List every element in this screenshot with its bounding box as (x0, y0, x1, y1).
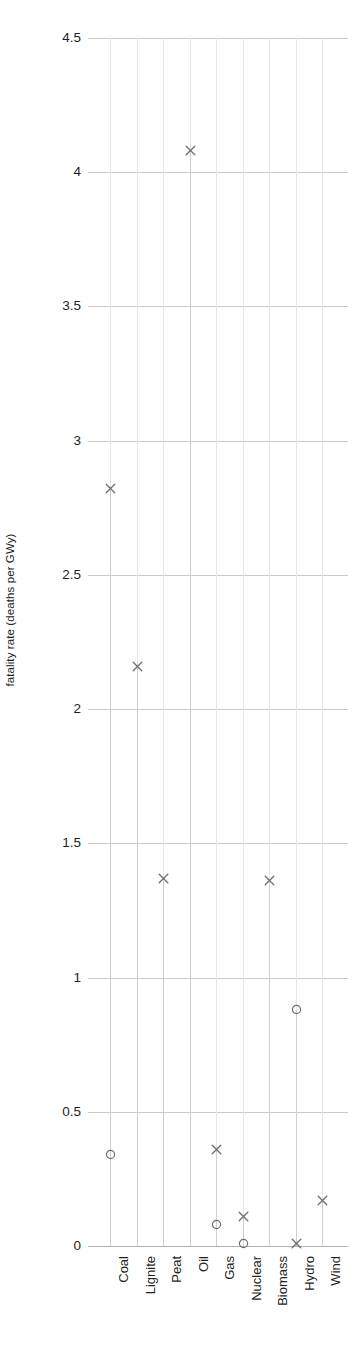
category-guide-line (243, 38, 244, 1246)
stem-line (216, 1149, 217, 1246)
stem-line (190, 151, 191, 1246)
data-point-cross-nuclear (237, 1210, 250, 1223)
gridline-3 (88, 441, 348, 442)
column-oil (190, 38, 191, 1246)
data-point-cross-peat (157, 872, 170, 885)
y-axis-label: fatality rate (deaths per GWy) (4, 290, 16, 930)
y-tick-label: 3.5 (62, 300, 81, 314)
x-tick-label-wind: Wind (329, 1256, 342, 1286)
data-point-cross-coal (104, 482, 117, 495)
figure-caption (0, 1330, 357, 1361)
y-tick-label: 4.5 (62, 31, 81, 45)
x-tick-label-peat: Peat (170, 1256, 183, 1283)
figure-scatter-fatality-rate: fatality rate (deaths per GWy) 00.511.52… (0, 0, 357, 1361)
gridline-2 (88, 709, 348, 710)
stem-line (137, 666, 138, 1246)
column-biomass (269, 38, 270, 1246)
x-tick-label-hydro: Hydro (303, 1256, 316, 1291)
gridline-2.5 (88, 575, 348, 576)
data-point-cross-hydro (290, 1237, 303, 1250)
data-point-cross-biomass (263, 874, 276, 887)
data-point-cross-wind (316, 1194, 329, 1207)
category-guide-line (322, 38, 323, 1246)
x-tick-label-lignite: Lignite (144, 1256, 157, 1294)
stem-line (269, 881, 270, 1246)
y-tick-label: 2.5 (62, 568, 81, 582)
data-point-cross-lignite (131, 660, 144, 673)
y-tick-label: 1 (73, 971, 81, 985)
column-lignite (137, 38, 138, 1246)
plot-area: 00.511.522.533.544.5 CoalLignitePeatOilG… (88, 38, 348, 1246)
gridline-3.5 (88, 306, 348, 307)
column-peat (163, 38, 164, 1246)
gridline-0.5 (88, 1112, 348, 1113)
x-tick-label-coal: Coal (117, 1256, 130, 1283)
category-guide-line (216, 38, 217, 1246)
stem-line (163, 878, 164, 1246)
x-tick-label-nuclear: Nuclear (250, 1256, 263, 1301)
column-nuclear (243, 38, 244, 1246)
stem-line (296, 1010, 297, 1246)
gridline-4 (88, 172, 348, 173)
y-tick-label: 0.5 (62, 1105, 81, 1119)
gridline-4.5 (88, 38, 348, 39)
data-point-cross-gas (210, 1143, 223, 1156)
y-tick-label: 2 (73, 702, 81, 716)
x-tick-label-oil: Oil (197, 1256, 210, 1272)
gridline-1.5 (88, 843, 348, 844)
data-point-circle-nuclear (237, 1237, 250, 1250)
y-tick-label: 4 (73, 165, 81, 179)
y-tick-label: 0 (73, 1239, 81, 1253)
data-point-circle-gas (210, 1218, 223, 1231)
data-point-circle-coal (104, 1148, 117, 1161)
column-gas (216, 38, 217, 1246)
column-hydro (296, 38, 297, 1246)
column-wind (322, 38, 323, 1246)
column-coal (110, 38, 111, 1246)
stem-line (110, 489, 111, 1246)
data-point-circle-hydro (290, 1003, 303, 1016)
y-tick-label: 3 (73, 434, 81, 448)
gridline-0 (88, 1246, 348, 1247)
y-tick-label: 1.5 (62, 837, 81, 851)
stem-line (322, 1200, 323, 1246)
gridline-1 (88, 978, 348, 979)
x-tick-label-biomass: Biomass (276, 1256, 289, 1306)
data-point-cross-oil (184, 144, 197, 157)
x-tick-label-gas: Gas (223, 1256, 236, 1280)
